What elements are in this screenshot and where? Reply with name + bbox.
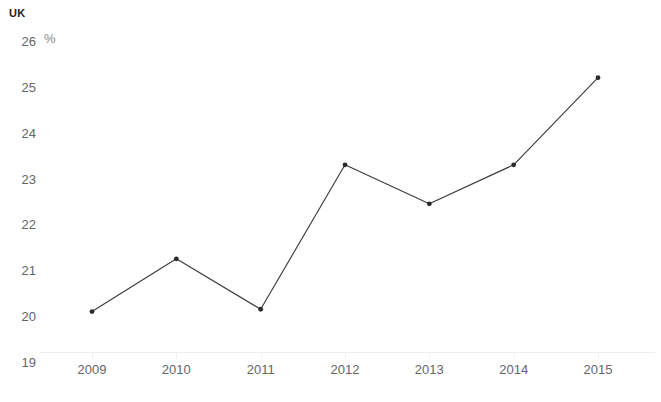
chart-container: UK % 1920212223242526 200920102011201220… [0, 0, 661, 402]
x-tick-label-2014: 2014 [499, 362, 528, 377]
x-tick-label-2009: 2009 [78, 362, 107, 377]
x-tick-label-2010: 2010 [162, 362, 191, 377]
x-axis-tick-labels: 2009201020112012201320142015 [0, 0, 661, 402]
x-tick-label-2015: 2015 [584, 362, 613, 377]
x-tick-label-2011: 2011 [247, 362, 275, 377]
x-tick-label-2012: 2012 [331, 362, 360, 377]
x-tick-label-2013: 2013 [415, 362, 444, 377]
